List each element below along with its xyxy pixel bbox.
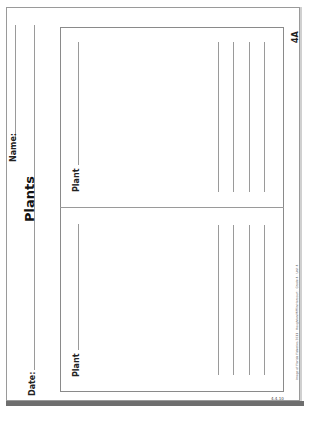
- date-label: Date:: [28, 372, 37, 397]
- panel-2-writing-line[interactable]: [249, 42, 250, 192]
- panel-1-label: Plant: [72, 353, 81, 377]
- panel-divider: [60, 207, 284, 208]
- panel-1-label-line[interactable]: [78, 224, 79, 350]
- page-edge-shadow: [300, 7, 302, 401]
- panels-box: [60, 27, 284, 392]
- copyright-footnote: Image of Florida Fisheries 2011 · Hought…: [295, 265, 299, 380]
- page-number: 4.4.10: [271, 396, 284, 401]
- name-line[interactable]: [15, 25, 16, 140]
- panel-1-writing-line[interactable]: [218, 225, 219, 375]
- page-bottom-shadow: [6, 401, 304, 406]
- name-label: Name:: [9, 133, 18, 162]
- panel-2-writing-line[interactable]: [264, 42, 265, 192]
- panel-1-writing-line[interactable]: [233, 225, 234, 375]
- worksheet-id-badge: 4A: [291, 31, 300, 43]
- panel-2-label: Plant: [72, 168, 81, 192]
- panel-2-label-line[interactable]: [78, 42, 79, 165]
- panel-1-writing-line[interactable]: [249, 225, 250, 375]
- panel-1-writing-line[interactable]: [264, 225, 265, 375]
- worksheet-title: Plants: [22, 176, 37, 222]
- panel-2-writing-line[interactable]: [218, 42, 219, 192]
- panel-2-writing-line[interactable]: [233, 42, 234, 192]
